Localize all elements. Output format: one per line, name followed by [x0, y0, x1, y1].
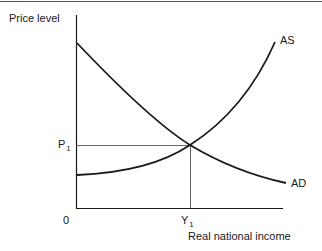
y-axis-label: Price level [9, 13, 60, 24]
y1-label: Y1 [181, 215, 194, 226]
origin-label: 0 [63, 215, 69, 226]
p1-label-main: P [58, 138, 65, 150]
y1-label-sub: 1 [189, 220, 193, 229]
ad-curve-label: AD [291, 178, 306, 189]
p1-label-sub: 1 [66, 144, 70, 153]
ad-as-diagram [0, 0, 322, 251]
y1-label-main: Y [181, 214, 188, 226]
as-curve [77, 42, 275, 175]
x-axis-label: Real national income [188, 231, 291, 242]
as-curve-label: AS [280, 35, 295, 46]
p1-label: P1 [58, 139, 71, 150]
ad-curve [77, 43, 286, 183]
